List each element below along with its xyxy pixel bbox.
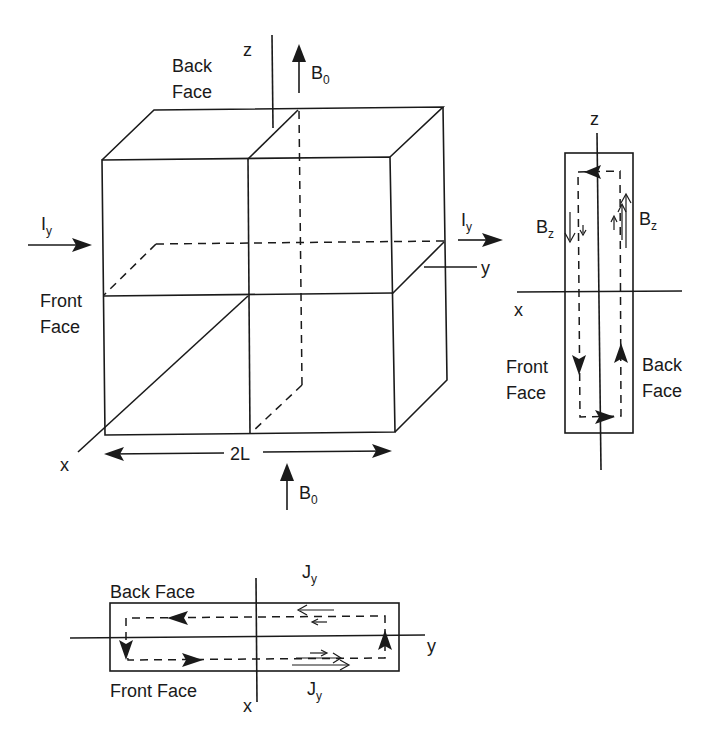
right-mid-diagonal xyxy=(392,242,444,294)
bz-left-label: Bz xyxy=(536,217,554,241)
back-face-label-2: Face xyxy=(172,82,212,102)
dimension-left xyxy=(108,453,224,454)
y-axis-label: y xyxy=(481,258,490,278)
arrowhead-icon xyxy=(167,611,188,625)
cube-right-face xyxy=(395,107,447,432)
hidden-left-diagonal xyxy=(104,244,156,295)
front-face-label-2: Face xyxy=(40,317,80,337)
hidden-mid-vertical xyxy=(299,111,302,385)
dimension-right xyxy=(263,451,388,452)
front-face-label-1: Front xyxy=(40,291,82,311)
front-mid-vertical xyxy=(248,159,250,433)
jy-top-label: Jy xyxy=(302,562,317,586)
back-face-label-1: Back xyxy=(172,56,213,76)
arrowhead-icon xyxy=(572,355,586,375)
cube-3d-view: z Back Face B0 Iy Iy y Front Face x 2L B… xyxy=(28,35,503,510)
top-y-axis xyxy=(70,635,425,638)
bz-right-label: Bz xyxy=(639,209,657,233)
top-front-face-label: Front Face xyxy=(110,681,197,701)
b0-top-label: B0 xyxy=(311,63,330,87)
current-in-label: Iy xyxy=(41,214,52,238)
top-y-label: y xyxy=(427,636,436,656)
top-current-loop xyxy=(126,616,385,660)
side-front-label-1: Front xyxy=(506,357,548,377)
width-label: 2L xyxy=(230,444,250,464)
side-z-label: z xyxy=(590,109,599,129)
side-front-label-2: Face xyxy=(506,383,546,403)
top-view-xy: Jy Back Face y Front Face x Jy xyxy=(70,562,436,716)
arrowhead-icon xyxy=(119,640,133,660)
z-axis-label: z xyxy=(243,40,252,60)
side-view-xz: z Bz Bz x Front Face Back Face xyxy=(506,109,683,470)
top-x-axis xyxy=(256,578,257,702)
arrowhead-icon xyxy=(292,44,306,62)
z-axis-line xyxy=(272,35,273,128)
hidden-bottom-diagonal xyxy=(252,385,302,432)
diagram-canvas: z Back Face B0 Iy Iy y Front Face x 2L B… xyxy=(0,0,719,733)
side-x-axis xyxy=(517,291,682,292)
side-x-label: x xyxy=(514,300,523,320)
jy-bottom-label: Jy xyxy=(307,679,322,703)
b0-bottom-label: B0 xyxy=(299,483,318,507)
side-back-label-1: Back xyxy=(642,355,683,375)
current-out-label: Iy xyxy=(461,210,472,234)
x-axis-label: x xyxy=(60,455,69,475)
top-x-label: x xyxy=(243,696,252,716)
side-back-label-2: Face xyxy=(642,381,682,401)
arrowhead-icon xyxy=(280,463,294,481)
top-back-face-label: Back Face xyxy=(110,582,195,602)
